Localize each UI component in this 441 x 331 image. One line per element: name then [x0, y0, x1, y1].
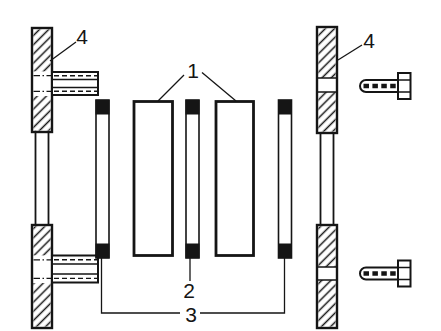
callout-3: 3	[185, 303, 197, 326]
pane-right	[216, 102, 254, 256]
leader-3-left-bracket	[102, 258, 181, 313]
gasket-left	[96, 100, 110, 258]
hatch-fill	[33, 29, 50, 71]
gasket-end-cap	[278, 100, 292, 115]
gasket-right	[278, 100, 292, 258]
bolt-head	[398, 73, 411, 99]
left-flange	[32, 28, 98, 328]
leader-1-right	[202, 73, 236, 102]
hatch-fill	[318, 28, 335, 78]
threaded-stub-bottom	[52, 256, 98, 283]
bolt-bottom	[360, 261, 411, 287]
bolt-top	[360, 73, 411, 99]
leader-3-right-bracket	[200, 258, 285, 313]
gasket-body	[186, 100, 199, 258]
diagram-canvas: 1 2 3 4 4	[0, 0, 441, 331]
hatch-fill	[318, 280, 335, 327]
leader-4-left	[50, 42, 76, 61]
leader-1-left	[158, 75, 184, 101]
gasket-middle	[186, 100, 200, 258]
exploded-assembly-diagram: 1 2 3 4 4	[0, 0, 441, 331]
hatch-fill	[33, 96, 50, 131]
callout-2: 2	[183, 279, 195, 302]
pane-left	[134, 102, 173, 256]
gasket-end-cap	[96, 100, 110, 115]
hatch-fill	[33, 226, 50, 255]
callout-4-right: 4	[363, 29, 375, 52]
gasket-end-cap	[278, 244, 292, 259]
gasket-body	[96, 100, 109, 258]
threaded-stub-top	[52, 72, 98, 95]
callout-1: 1	[187, 59, 199, 82]
callout-4-left: 4	[76, 25, 88, 48]
leader-4-right	[338, 45, 362, 60]
left-flange-web	[36, 131, 49, 226]
hatch-fill	[318, 92, 335, 132]
right-flange	[317, 27, 337, 328]
gasket-end-cap	[186, 100, 200, 115]
bolt-head	[398, 261, 411, 287]
gasket-end-cap	[186, 244, 200, 259]
gasket-end-cap	[96, 244, 110, 259]
gasket-body	[279, 100, 292, 258]
right-flange-web	[321, 132, 334, 226]
hatch-fill	[318, 226, 335, 267]
hatch-fill	[33, 283, 50, 327]
